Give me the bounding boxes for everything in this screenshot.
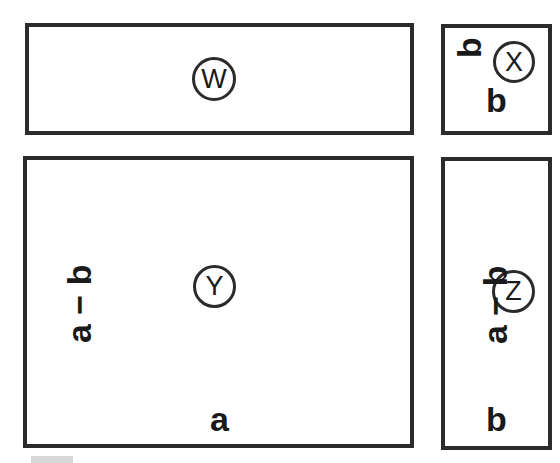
dimension-label-x-height: b [452, 37, 486, 58]
dimension-label-x-width: b [486, 83, 507, 117]
region-letter-w: W [192, 57, 236, 101]
scan-artifact [31, 456, 73, 463]
dimension-label-z-width: b [486, 402, 507, 436]
region-letter-y: Y [193, 265, 236, 308]
dimension-label-z-height: a − b [478, 266, 512, 344]
dimension-label-y-width: a [210, 402, 229, 436]
geometry-figure: W X b b Y a − b a Z a − b b [0, 0, 560, 463]
region-letter-x: X [493, 41, 535, 83]
dimension-label-y-height: a − b [62, 265, 96, 343]
